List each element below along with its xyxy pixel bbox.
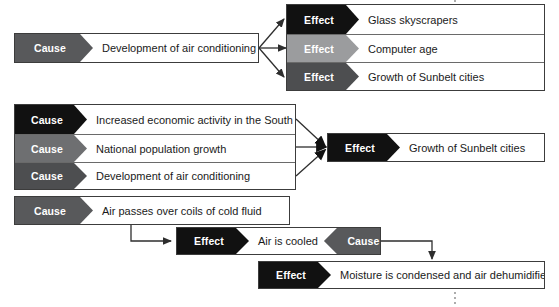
cause-bar-national-population-growth[interactable]: Cause National population growth bbox=[15, 134, 295, 162]
effect-cause-bar-air-is-cooled[interactable]: Effect Air is cooled Cause bbox=[176, 227, 381, 255]
cause-text: Air passes over coils of cold fluid bbox=[93, 197, 289, 224]
effect-bar-growth-sunbelt-cities[interactable]: Effect Growth of Sunbelt cities bbox=[287, 62, 544, 90]
effect-bar-growth-sunbelt-cities-middle[interactable]: Effect Growth of Sunbelt cities bbox=[327, 133, 545, 162]
cause-bar-air-passes-over-coils[interactable]: Cause Air passes over coils of cold flui… bbox=[14, 196, 290, 225]
effect-text: Growth of Sunbelt cities bbox=[359, 63, 544, 90]
effect-bar-glass-skyscrapers[interactable]: Effect Glass skyscrapers bbox=[287, 5, 544, 34]
connector-bottom-elbow-2 bbox=[381, 241, 432, 259]
effect-tab: Effect bbox=[177, 228, 249, 254]
effect-bar-moisture-condensed[interactable]: Effect Moisture is condensed and air deh… bbox=[258, 261, 545, 289]
cause-bar-increased-economic-activity[interactable]: Cause Increased economic activity in the… bbox=[15, 105, 295, 134]
cause-bar-development-air-conditioning[interactable]: Cause Development of air conditioning bbox=[14, 33, 259, 63]
effect-tab: Effect bbox=[287, 63, 359, 90]
cause-tab: Cause bbox=[15, 197, 93, 224]
connector-middle-fan bbox=[296, 119, 326, 176]
chain-text: Air is cooled bbox=[249, 228, 324, 254]
effect-text: Glass skyscrapers bbox=[359, 5, 544, 34]
effect-text: Computer age bbox=[359, 35, 544, 62]
connector-top-fan bbox=[259, 19, 286, 77]
cause-text: National population growth bbox=[87, 135, 295, 162]
effect-tab: Effect bbox=[287, 35, 359, 62]
diagram-canvas: Cause Development of air conditioning Ef… bbox=[0, 0, 559, 307]
cause-tab: Cause bbox=[324, 228, 381, 254]
effect-group-top: Effect Glass skyscrapers Effect Computer… bbox=[286, 4, 545, 91]
effect-tab: Effect bbox=[287, 5, 359, 34]
cause-text: Development of air conditioning bbox=[93, 34, 259, 62]
effect-bar-computer-age[interactable]: Effect Computer age bbox=[287, 34, 544, 62]
cause-tab: Cause bbox=[15, 163, 87, 189]
cause-tab: Cause bbox=[15, 135, 87, 162]
effect-text: Growth of Sunbelt cities bbox=[400, 134, 544, 161]
cause-tab: Cause bbox=[15, 105, 87, 134]
effect-tab: Effect bbox=[259, 262, 331, 288]
cause-group-middle: Cause Increased economic activity in the… bbox=[14, 104, 296, 190]
cause-text: Development of air conditioning bbox=[87, 163, 295, 189]
cause-text: Increased economic activity in the South bbox=[87, 105, 295, 134]
cause-bar-development-air-conditioning[interactable]: Cause Development of air conditioning bbox=[15, 162, 295, 189]
cause-tab: Cause bbox=[15, 34, 93, 62]
effect-text: Moisture is condensed and air dehumidifi… bbox=[331, 262, 545, 288]
effect-tab: Effect bbox=[328, 134, 400, 161]
